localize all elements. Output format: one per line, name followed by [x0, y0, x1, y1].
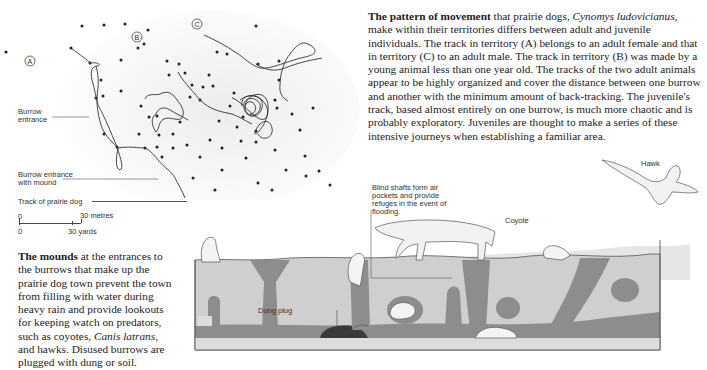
dung-plug-label: Dung plug	[258, 307, 292, 315]
scale-imperial-zero: 0	[18, 228, 22, 236]
prairie-dog-lookout	[201, 237, 220, 262]
blind-shafts-caption: Blind shafts form air pockets and provid…	[372, 184, 450, 216]
territory-c-label: C	[195, 21, 200, 28]
scale-tick	[81, 219, 82, 223]
mounds-paragraph: The mounds at the entrances to the burro…	[18, 250, 174, 370]
mounds-text-part1: at the entrances to the burrows that mak…	[18, 250, 171, 342]
pattern-text-part2: , make within their territories differs …	[368, 10, 701, 142]
pattern-paragraph: The pattern of movement that prairie dog…	[368, 10, 702, 143]
territory-a-label: A	[28, 58, 33, 65]
territory-b-label: B	[135, 34, 140, 41]
pattern-species: Cynomys ludovicianus	[573, 10, 675, 22]
scale-metric-end: 30 metres	[80, 212, 113, 220]
burrow-entrance-mound-label: Burrow entrance with mound	[18, 171, 80, 187]
prairie-dog-entrance	[543, 246, 570, 260]
mounds-lead: The mounds	[18, 250, 78, 262]
burrow-entrance-label: Burrow entrance	[18, 108, 58, 124]
coyote-illustration	[375, 220, 495, 260]
pattern-lead: The pattern of movement	[368, 10, 491, 22]
track-label: Track of prairie dog	[18, 198, 82, 206]
burrow-cross-section	[190, 210, 690, 354]
scale-tick	[72, 221, 73, 225]
coyote-label: Coyote	[505, 217, 529, 225]
scale-imperial-end: 30 yards	[68, 228, 97, 236]
hawk-label: Hawk	[641, 160, 660, 168]
track-leader	[92, 201, 187, 202]
mounds-species: Canis latrans	[94, 330, 155, 342]
pattern-text-part1: that prairie dogs,	[491, 10, 573, 22]
scale-tick	[19, 219, 20, 225]
